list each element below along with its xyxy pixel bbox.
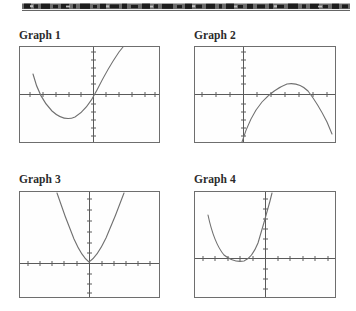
graph-3-label: Graph 3 xyxy=(19,173,61,185)
graph-4-label: Graph 4 xyxy=(194,173,236,185)
graph-4-plot xyxy=(194,191,336,298)
graph-cell-3: Graph 3 xyxy=(19,173,160,297)
graph-1-label: Graph 1 xyxy=(19,29,61,41)
graph-cell-2: Graph 2 xyxy=(194,29,336,143)
graph-1-svg xyxy=(19,46,160,143)
scan-artifact-strip xyxy=(22,3,350,11)
graph-cell-4: Graph 4 xyxy=(194,173,336,297)
graph-2-label: Graph 2 xyxy=(194,29,236,41)
graph-2-plot xyxy=(194,46,336,143)
graph-2-svg xyxy=(194,46,336,143)
scan-strip-underline xyxy=(22,10,350,11)
graph-4-svg xyxy=(194,191,336,298)
graph-cell-1: Graph 1 xyxy=(19,29,160,143)
graph-1-plot xyxy=(19,46,160,143)
graph-3-plot xyxy=(19,191,160,298)
worksheet-page: Graph 1 xyxy=(0,0,356,311)
graph-3-svg xyxy=(19,191,160,298)
